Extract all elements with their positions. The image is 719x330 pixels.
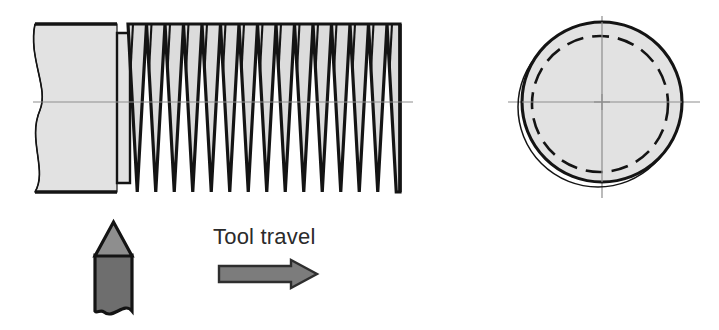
cutting-tool-icon bbox=[95, 222, 132, 314]
tool-travel-label: Tool travel bbox=[213, 224, 315, 250]
cutting-tool-body bbox=[95, 255, 132, 314]
threaded-bolt-end-view bbox=[508, 16, 700, 198]
tool-travel-arrow bbox=[219, 260, 317, 288]
bolt-shank-body bbox=[34, 24, 117, 192]
threaded-bolt-side-view bbox=[33, 24, 413, 192]
bolt-shoulder-step bbox=[117, 33, 130, 183]
cutting-tool-tip bbox=[95, 222, 132, 256]
thread-cutting-diagram: Tool travel bbox=[0, 0, 719, 330]
diagram-canvas bbox=[0, 0, 719, 330]
right-arrow-icon bbox=[219, 260, 317, 288]
